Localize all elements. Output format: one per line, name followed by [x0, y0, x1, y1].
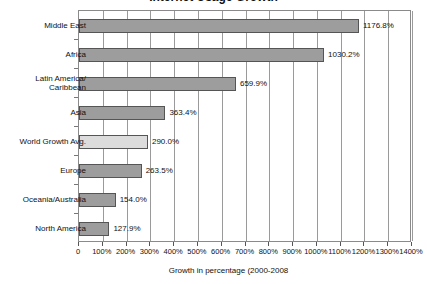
y-axis-category-label: Africa: [66, 49, 86, 58]
x-axis-tick-label: 1200%: [352, 247, 375, 256]
bar-value-label: 263.5%: [146, 167, 173, 175]
y-axis-category-label: Oceania/Australia: [23, 194, 86, 203]
x-axis-tick: [173, 242, 174, 246]
x-axis-tick: [363, 242, 364, 246]
bar-value-label: 659.9%: [240, 80, 267, 88]
x-axis-tick: [221, 242, 222, 246]
bar-value-label: 127.9%: [113, 225, 140, 233]
bar-value-label: 1176.8%: [363, 22, 394, 30]
bar: [79, 48, 324, 62]
x-axis-tick-label: 1300%: [376, 247, 399, 256]
bar-value-label: 1030.2%: [328, 51, 360, 59]
y-axis-category-label: World Growth Avg.: [20, 136, 86, 145]
x-axis-tick: [268, 242, 269, 246]
x-axis-tick-label: 100%: [92, 247, 111, 256]
bar: [79, 19, 359, 33]
x-axis-tick-label: 1100%: [328, 247, 351, 256]
bar-row: 154.0%: [79, 193, 410, 207]
x-axis-tick-label: 300%: [140, 247, 159, 256]
bar-row: 659.9%: [79, 77, 410, 91]
x-axis-tick-label: 1000%: [304, 247, 327, 256]
bar-row: 1176.8%: [79, 19, 410, 33]
x-axis-tick: [126, 242, 127, 246]
y-axis-category-label: Middle East: [44, 20, 86, 29]
gridline: [341, 11, 342, 241]
y-axis-tick: [74, 155, 78, 156]
x-axis-tick: [340, 242, 341, 246]
y-axis-tick: [74, 126, 78, 127]
x-axis-tick: [78, 242, 79, 246]
chart-title-cropped: Internet Usage Growth: [0, 0, 427, 7]
bar: [79, 164, 142, 178]
y-axis-tick: [74, 213, 78, 214]
x-axis-tick: [316, 242, 317, 246]
x-axis-tick: [292, 242, 293, 246]
y-axis-category-label: Asia: [70, 107, 86, 116]
gridline: [388, 11, 389, 241]
gridline: [222, 11, 223, 241]
gridline: [293, 11, 294, 241]
plot-area: 1176.8%1030.2%659.9%363.4%290.0%263.5%15…: [78, 10, 411, 242]
x-axis-tick-label: 700%: [235, 247, 254, 256]
gridline: [127, 11, 128, 241]
gridline: [198, 11, 199, 241]
gridline: [103, 11, 104, 241]
x-axis-tick: [197, 242, 198, 246]
y-axis-tick: [74, 39, 78, 40]
x-axis-tick: [245, 242, 246, 246]
x-axis-tick-label: 600%: [211, 247, 230, 256]
bar-row: 363.4%: [79, 106, 410, 120]
x-axis-tick-label: 400%: [164, 247, 183, 256]
bar: [79, 106, 165, 120]
bar-value-label: 363.4%: [169, 109, 196, 117]
bar-value-label: 154.0%: [120, 196, 147, 204]
gridline: [174, 11, 175, 241]
x-axis-tick: [411, 242, 412, 246]
gridline: [317, 11, 318, 241]
bar-row: 127.9%: [79, 222, 410, 236]
bar-row: 290.0%: [79, 135, 410, 149]
x-axis-tick: [102, 242, 103, 246]
y-axis-category-label: Latin America/ Caribbean: [35, 74, 86, 92]
bar-row: 1030.2%: [79, 48, 410, 62]
gridline: [269, 11, 270, 241]
y-axis-tick: [74, 184, 78, 185]
gridline: [150, 11, 151, 241]
bar: [79, 135, 148, 149]
y-axis-category-label: North America: [35, 223, 86, 232]
gridline: [246, 11, 247, 241]
bar-row: 263.5%: [79, 164, 410, 178]
bar-chart: Internet Usage Growth 1176.8%1030.2%659.…: [0, 0, 427, 284]
y-axis-tick: [74, 97, 78, 98]
x-axis-tick: [149, 242, 150, 246]
gridline: [364, 11, 365, 241]
x-axis-tick-label: 800%: [259, 247, 278, 256]
x-axis-tick-label: 500%: [187, 247, 206, 256]
bar: [79, 77, 236, 91]
gridline: [412, 11, 413, 241]
y-axis-category-label: Europe: [60, 165, 86, 174]
bar-value-label: 290.0%: [152, 138, 179, 146]
chart-title-text: Internet Usage Growth: [0, 0, 427, 4]
x-axis-tick-label: 900%: [282, 247, 301, 256]
x-axis-tick-label: 0: [76, 247, 80, 256]
x-axis-tick-label: 200%: [116, 247, 135, 256]
y-axis-tick: [74, 68, 78, 69]
x-axis-tick: [387, 242, 388, 246]
x-axis-tick-label: 1400%: [399, 247, 422, 256]
x-axis-title: Growth in percentage (2000-2008: [0, 266, 427, 275]
